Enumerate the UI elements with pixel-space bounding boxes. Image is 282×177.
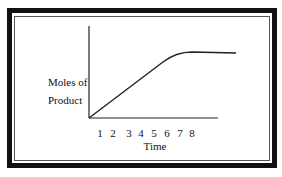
x-axis-label: Time [144, 140, 167, 152]
x-tick-label: 8 [189, 127, 195, 139]
y-axis-label-line2: Product [48, 94, 82, 106]
x-tick-label: 5 [151, 127, 157, 139]
x-tick-label: 2 [110, 127, 116, 139]
x-tick-label: 6 [164, 127, 170, 139]
x-tick-label: 7 [177, 127, 183, 139]
y-axis-label-line1: Moles of [48, 76, 88, 88]
x-tick-label: 3 [126, 127, 132, 139]
x-tick-label: 1 [97, 127, 103, 139]
x-tick-label: 4 [138, 127, 144, 139]
product-curve [89, 52, 236, 118]
line-chart: Moles of Product 1 2 3 4 5 6 7 8 Time [0, 0, 282, 177]
